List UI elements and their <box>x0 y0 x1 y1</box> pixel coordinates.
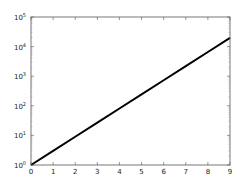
y-tick-label: 101 <box>14 130 26 140</box>
x-tick-label: 5 <box>139 168 143 176</box>
y-axis-ticks: 100101102103104105 <box>14 12 230 170</box>
x-axis-ticks: 0123456789 <box>29 17 232 176</box>
x-tick-label: 9 <box>228 168 232 176</box>
y-tick-label: 104 <box>14 42 26 52</box>
series-line <box>31 38 230 165</box>
y-tick-label: 100 <box>14 160 26 170</box>
log-line-chart: 0123456789 100101102103104105 <box>0 0 243 181</box>
x-tick-label: 7 <box>184 168 188 176</box>
x-tick-label: 0 <box>29 168 33 176</box>
x-tick-label: 3 <box>95 168 99 176</box>
x-tick-label: 8 <box>206 168 210 176</box>
y-tick-label: 105 <box>14 12 26 22</box>
y-tick-label: 103 <box>14 71 26 81</box>
x-tick-label: 1 <box>51 168 55 176</box>
data-series <box>31 38 230 165</box>
y-tick-label: 102 <box>14 101 26 111</box>
x-tick-label: 2 <box>73 168 77 176</box>
x-tick-label: 6 <box>161 168 166 176</box>
axes-frame <box>31 17 230 165</box>
x-tick-label: 4 <box>117 168 122 176</box>
